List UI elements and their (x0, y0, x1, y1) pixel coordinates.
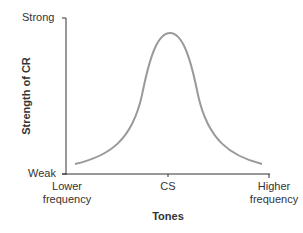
x-tick-label-higher-line2: frequency (244, 193, 303, 206)
x-tick-label-cs: CS (153, 180, 183, 193)
x-axis-title: Tones (143, 210, 193, 223)
x-tick-label-lower-line2: frequency (42, 193, 92, 206)
x-tick-label-lower: Lower frequency (42, 180, 92, 206)
y-axis-title: Strength of CR (20, 48, 32, 144)
x-tick-label-higher-line1: Higher (244, 180, 303, 193)
y-tick-label-weak: Weak (28, 167, 56, 179)
generalization-curve (75, 33, 262, 164)
x-tick-label-higher: Higher frequency (244, 180, 303, 206)
y-tick-label-strong: Strong (22, 11, 54, 23)
x-tick-label-lower-line1: Lower (42, 180, 92, 193)
